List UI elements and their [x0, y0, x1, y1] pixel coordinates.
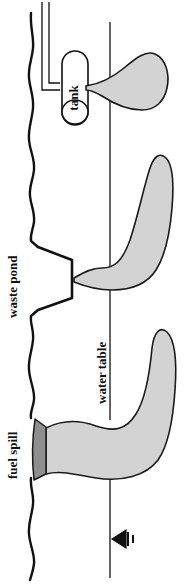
- fuel-spill-shape: [33, 419, 46, 480]
- figure-root: tank waste pond water table fuel spill: [0, 0, 195, 586]
- tank-label: tank: [66, 85, 81, 111]
- fuel-spill-label: fuel spill: [5, 431, 20, 479]
- cross-section-diagram: tank waste pond water table fuel spill: [0, 0, 195, 586]
- water-table-label: water table: [94, 342, 109, 404]
- waste-pond-label: waste pond: [5, 255, 20, 318]
